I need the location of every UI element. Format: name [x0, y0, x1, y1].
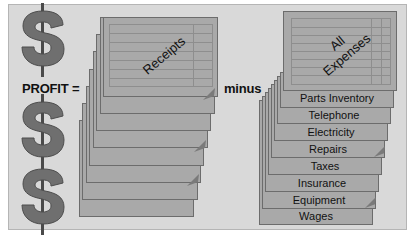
- all-expenses-sheet: All Expenses: [283, 11, 397, 91]
- page-curl-icon: [203, 88, 215, 100]
- page-curl-icon: [194, 140, 206, 152]
- dollar-sign-icon: [18, 94, 68, 168]
- page-curl-icon: [374, 146, 385, 157]
- page-curl-icon: [187, 174, 199, 186]
- receipt-sheet-top: Receipts: [103, 17, 218, 97]
- profit-label: PROFIT =: [22, 81, 79, 96]
- dollar-sign-icon: [18, 3, 68, 77]
- minus-label: minus: [224, 81, 261, 96]
- dollar-sign-icon: [18, 161, 68, 235]
- page-curl-icon: [365, 197, 376, 208]
